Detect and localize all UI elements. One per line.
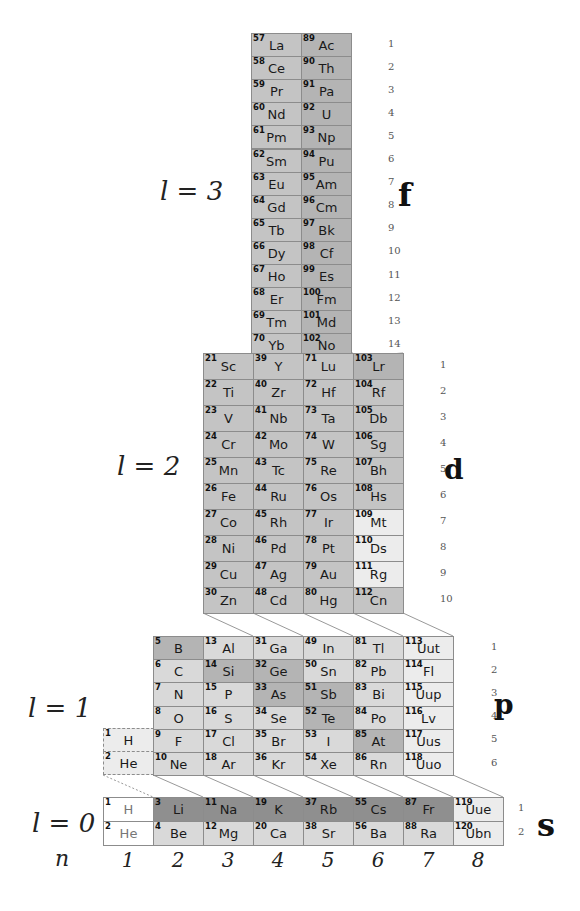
element-symbol: Rn: [354, 757, 403, 772]
element-symbol: In: [304, 641, 353, 656]
element-cell-pr: 59Pr: [251, 79, 302, 103]
element-symbol: Hg: [304, 593, 353, 608]
element-cell-mo: 42Mo: [253, 431, 304, 458]
element-cell-w: 74W: [303, 431, 354, 458]
n-value-3: 3: [203, 848, 253, 872]
element-cell-te: 52Te: [303, 706, 354, 730]
element-symbol: Sm: [252, 154, 301, 169]
element-cell-fe: 26Fe: [203, 483, 254, 510]
element-symbol: V: [204, 411, 253, 426]
row-index-label: 1: [388, 38, 394, 49]
element-cell-zr: 40Zr: [253, 379, 304, 406]
element-cell-si: 14Si: [203, 659, 254, 683]
row-index-label: 6: [440, 489, 446, 500]
row-index-label: 3: [440, 411, 446, 422]
element-cell-rh: 45Rh: [253, 509, 304, 536]
element-symbol: Pm: [252, 130, 301, 145]
element-cell-sr: 38Sr: [303, 821, 354, 846]
element-symbol: Rg: [354, 567, 403, 582]
element-symbol: K: [254, 802, 303, 817]
element-cell-fm: 100Fm: [301, 287, 352, 311]
element-cell-es: 99Es: [301, 264, 352, 288]
element-symbol: Ac: [302, 38, 351, 53]
element-symbol: Ds: [354, 541, 403, 556]
element-cell-o: 8O: [153, 706, 204, 730]
n-value-2: 2: [153, 848, 203, 872]
element-cell-rf: 104Rf: [353, 379, 404, 406]
element-cell-tc: 43Tc: [253, 457, 304, 484]
n-value-5: 5: [303, 848, 353, 872]
element-symbol: Zr: [254, 385, 303, 400]
element-cell-cd: 48Cd: [253, 587, 304, 614]
element-cell-mt: 109Mt: [353, 509, 404, 536]
element-cell-he: 2He: [103, 751, 154, 775]
element-cell-cs: 55Cs: [353, 797, 404, 822]
element-cell-ca: 20Ca: [253, 821, 304, 846]
element-symbol: Ni: [204, 541, 253, 556]
element-symbol: No: [302, 338, 351, 353]
element-cell-cl: 17Cl: [203, 729, 254, 753]
row-index-label: 6: [491, 757, 497, 768]
element-cell-ga: 31Ga: [253, 636, 304, 660]
element-symbol: Np: [302, 130, 351, 145]
element-symbol: Nd: [252, 107, 301, 122]
element-symbol: O: [154, 711, 203, 726]
element-symbol: Am: [302, 177, 351, 192]
element-cell-ge: 32Ge: [253, 659, 304, 683]
element-symbol: Na: [204, 802, 253, 817]
row-index-label: 1: [518, 802, 524, 813]
element-symbol: Be: [154, 826, 203, 841]
element-symbol: Lu: [304, 359, 353, 374]
element-symbol: Pd: [254, 541, 303, 556]
element-symbol: Ra: [404, 826, 453, 841]
element-cell-bk: 97Bk: [301, 218, 352, 242]
element-symbol: Pt: [304, 541, 353, 556]
element-symbol: Bh: [354, 463, 403, 478]
element-symbol: La: [252, 38, 301, 53]
element-cell-ru: 44Ru: [253, 483, 304, 510]
element-symbol: Hs: [354, 489, 403, 504]
element-symbol: Re: [304, 463, 353, 478]
element-symbol: B: [154, 641, 203, 656]
element-cell-sb: 51Sb: [303, 682, 354, 706]
f-block-letter: f: [398, 176, 412, 214]
element-symbol: Kr: [254, 757, 303, 772]
element-cell-uue: 119Uue: [453, 797, 504, 822]
element-cell-ba: 56Ba: [353, 821, 404, 846]
element-cell-tb: 65Tb: [251, 218, 302, 242]
element-cell-er: 68Er: [251, 287, 302, 311]
n-value-4: 4: [253, 848, 303, 872]
row-index-label: 2: [440, 385, 446, 396]
element-symbol: Cr: [204, 437, 253, 452]
element-symbol: Uue: [454, 802, 503, 817]
element-symbol: Gd: [252, 200, 301, 215]
n-axis-label: n: [42, 846, 82, 871]
element-symbol: I: [304, 734, 353, 749]
element-symbol: S: [204, 711, 253, 726]
element-symbol: Rh: [254, 515, 303, 530]
element-symbol: H: [104, 733, 153, 748]
element-cell-ni: 28Ni: [203, 535, 254, 562]
element-cell-ag: 47Ag: [253, 561, 304, 588]
row-index-label: 1: [491, 641, 497, 652]
element-symbol: Co: [204, 515, 253, 530]
element-symbol: Er: [252, 292, 301, 307]
element-symbol: Pb: [354, 664, 403, 679]
element-symbol: Cs: [354, 802, 403, 817]
element-cell-hs: 108Hs: [353, 483, 404, 510]
element-cell-he: 2He: [103, 821, 154, 846]
element-cell-cf: 98Cf: [301, 241, 352, 265]
element-cell-bh: 107Bh: [353, 457, 404, 484]
element-cell-sc: 21Sc: [203, 353, 254, 380]
element-symbol: Ge: [254, 664, 303, 679]
l1-label: l = 1: [28, 693, 91, 723]
element-symbol: Dy: [252, 246, 301, 261]
element-symbol: P: [204, 687, 253, 702]
element-symbol: Ga: [254, 641, 303, 656]
element-cell-rb: 37Rb: [303, 797, 354, 822]
element-symbol: Tm: [252, 315, 301, 330]
element-symbol: C: [154, 664, 203, 679]
element-cell-i: 53I: [303, 729, 354, 753]
element-cell-am: 95Am: [301, 172, 352, 196]
row-index-label: 10: [388, 245, 401, 256]
